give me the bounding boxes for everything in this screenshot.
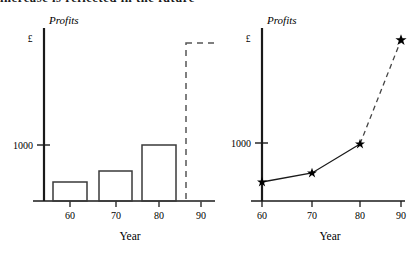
bar-60 (53, 182, 87, 201)
marker-70 (307, 168, 317, 178)
x-tick-label-60-left: 60 (65, 210, 75, 221)
bar-70 (99, 171, 132, 201)
bar-90-projected (186, 43, 215, 201)
bar-80 (142, 145, 176, 201)
line-chart: Profits £ 1000 60 70 80 90 Year (215, 0, 411, 255)
bar-chart: Profits £ 1000 60 70 80 90 Year (0, 0, 215, 255)
x-tick-label-70-right: 70 (307, 210, 317, 221)
y-tick-label-1000-right: 1000 (231, 138, 251, 149)
x-tick-label-60-right: 60 (257, 210, 267, 221)
data-point-markers (257, 34, 407, 186)
x-tick-label-80-left: 80 (154, 210, 164, 221)
y-unit-right: £ (246, 34, 251, 44)
x-axis-label-left: Year (119, 230, 140, 242)
y-tick-label-1000-left: 1000 (13, 140, 33, 151)
marker-90-projected (395, 34, 406, 45)
line-chart-canvas: Profits £ 1000 60 70 80 90 Year (215, 0, 411, 255)
x-tick-label-90-left: 90 (196, 210, 206, 221)
trend-line-actual (262, 144, 360, 182)
bar-chart-canvas: Profits £ 1000 60 70 80 90 Year (0, 0, 215, 255)
y-unit-left: £ (28, 34, 33, 44)
x-tick-label-90-right: 90 (396, 210, 406, 221)
x-axis-label-right: Year (319, 230, 340, 242)
x-tick-label-80-right: 80 (355, 210, 365, 221)
trend-line-projected (360, 40, 401, 144)
chart-title-left: Profits (48, 14, 79, 26)
figure-root: increase is reflected in the future Prof… (0, 0, 411, 255)
chart-title-right: Profits (266, 14, 297, 26)
x-tick-label-70-left: 70 (111, 210, 121, 221)
marker-80 (355, 139, 365, 149)
